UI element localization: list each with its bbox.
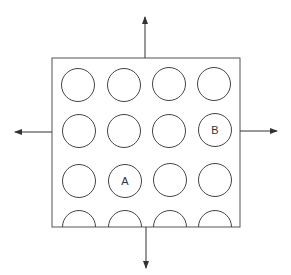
half-hole	[154, 211, 187, 228]
label-a: A	[121, 175, 129, 187]
plate-diagram: A B	[0, 0, 291, 275]
hole	[199, 164, 232, 197]
half-hole	[109, 211, 142, 228]
half-hole	[63, 211, 96, 228]
hole	[62, 69, 95, 102]
hole	[154, 164, 187, 197]
label-b: B	[211, 124, 218, 136]
tension-arrows	[15, 17, 277, 268]
half-hole	[199, 211, 232, 228]
hole	[153, 68, 186, 101]
hole	[108, 69, 141, 102]
holes	[62, 68, 232, 228]
hole	[198, 68, 231, 101]
hole	[63, 165, 96, 198]
plate	[52, 58, 240, 227]
hole	[108, 115, 141, 148]
hole	[63, 115, 96, 148]
hole	[153, 115, 186, 148]
